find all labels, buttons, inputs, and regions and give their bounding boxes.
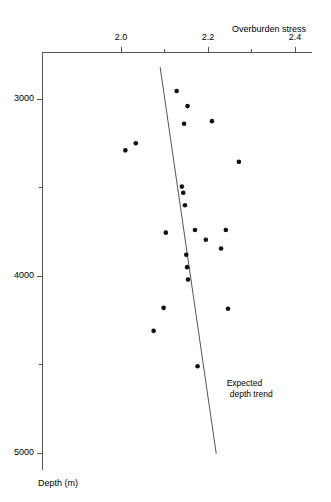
data-point [226, 306, 231, 311]
data-point [204, 237, 209, 242]
x-axis-title: Overburden stress [232, 24, 306, 34]
data-point [210, 119, 215, 124]
data-point [174, 89, 179, 94]
data-point [224, 228, 229, 233]
data-points-group [123, 89, 241, 369]
data-point [219, 246, 224, 251]
data-point [237, 160, 242, 165]
data-point [164, 230, 169, 235]
trend-annotation-line1: Expected [227, 378, 273, 389]
trend-annotation-line2: depth trend [227, 389, 273, 400]
data-point [181, 191, 186, 196]
y-tick-label: 3000 [0, 93, 34, 103]
data-point [184, 252, 189, 257]
axes-group [42, 52, 312, 470]
data-point [193, 228, 198, 233]
data-point [161, 306, 166, 311]
x-axis-ticks [121, 47, 295, 52]
data-point [195, 364, 200, 369]
data-point [182, 121, 187, 126]
trend-line-annotation: Expected depth trend [227, 378, 273, 400]
data-point [180, 184, 185, 189]
data-point [185, 104, 190, 109]
data-point [185, 265, 190, 270]
expected-depth-trend-line [160, 67, 216, 454]
y-axis-ticks [37, 99, 42, 453]
overburden-stress-depth-scatter-chart: 2.02.22.4 300040005000 Overburden stress… [0, 0, 331, 502]
data-point [186, 277, 191, 282]
y-tick-label: 4000 [0, 270, 34, 280]
x-tick-label: 2.2 [188, 32, 228, 42]
y-axis-title: Depth (m) [38, 478, 78, 488]
data-point [133, 141, 138, 146]
data-point [151, 329, 156, 334]
y-tick-label: 5000 [0, 447, 34, 457]
x-tick-label: 2.0 [101, 32, 141, 42]
chart-canvas [0, 0, 331, 502]
data-point [183, 203, 188, 208]
data-point [123, 148, 128, 153]
